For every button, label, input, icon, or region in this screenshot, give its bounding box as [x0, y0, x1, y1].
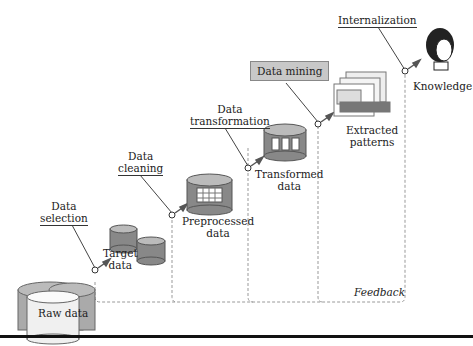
preprocessed-data-label: Preprocesseddata: [182, 215, 254, 239]
extracted-patterns-label: Extractedpatterns: [346, 124, 398, 148]
target-data-label: Targetdata: [103, 247, 138, 271]
step-internalization: Internalization: [338, 14, 417, 26]
bottom-rule: [0, 335, 473, 338]
step-data-cleaning: Datacleaning: [118, 150, 163, 174]
transformed-data-label: Transformeddata: [255, 168, 324, 192]
step-data-mining: Data mining: [250, 61, 329, 81]
step-data-transformation: Datatransformation: [190, 103, 270, 127]
step-data-selection: Dataselection: [40, 200, 88, 224]
knowledge-label: Knowledge: [413, 80, 472, 92]
preprocessed-data-icon: [187, 174, 232, 215]
feedback-label: Feedback: [354, 286, 405, 298]
raw-data-label: Raw data: [38, 307, 88, 319]
transformed-data-icon: [264, 124, 306, 161]
knowledge-thinker-icon: [426, 28, 454, 70]
extracted-patterns-icon: [334, 72, 390, 116]
